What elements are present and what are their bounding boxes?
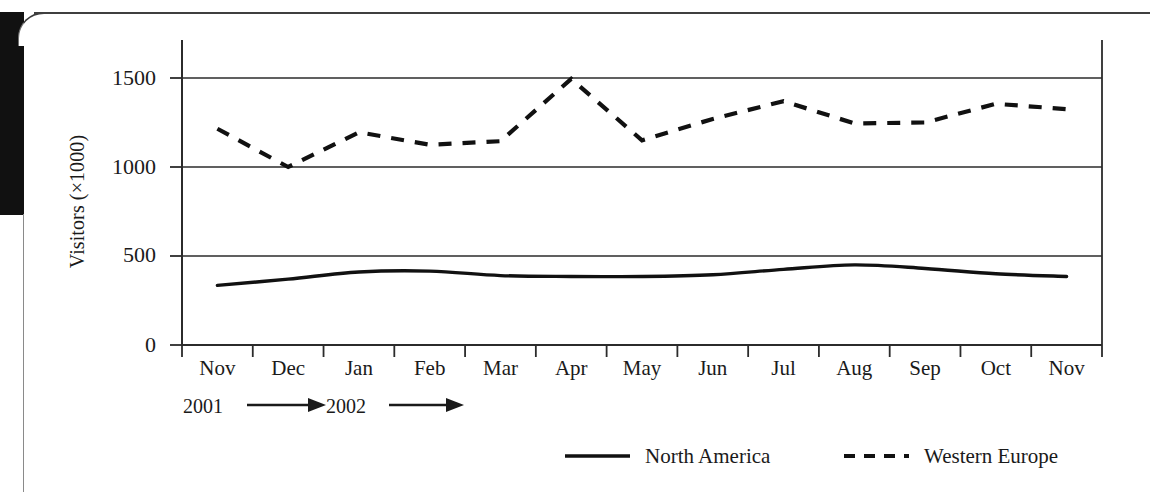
x-tick-label-10: Sep — [885, 358, 965, 379]
x-tick-label-0: Nov — [177, 358, 257, 379]
x-tick-label-11: Oct — [956, 358, 1036, 379]
x-tick-label-3: Feb — [390, 358, 470, 379]
year-label-2002: 2002 — [326, 396, 366, 416]
x-tick-label-4: Mar — [460, 358, 540, 379]
x-tick-label-9: Aug — [814, 358, 894, 379]
y-axis-ticks — [170, 78, 182, 345]
year-arrow-2002 — [389, 398, 464, 412]
x-tick-label-12: Nov — [1027, 358, 1107, 379]
x-tick-label-7: Jun — [673, 358, 753, 379]
plot-canvas — [0, 0, 1150, 492]
line-chart: Visitors (×1000) 1500 1000 500 0 — [0, 0, 1150, 492]
series-line-north-america — [217, 265, 1066, 285]
x-tick-label-5: Apr — [531, 358, 611, 379]
series-line-western-europe — [217, 79, 1066, 167]
legend-label-western-europe: Western Europe — [924, 446, 1058, 467]
x-tick-label-8: Jul — [744, 358, 824, 379]
x-tick-label-6: May — [602, 358, 682, 379]
year-arrow-2001 — [247, 398, 326, 412]
x-tick-label-2: Jan — [319, 358, 399, 379]
x-tick-label-1: Dec — [248, 358, 328, 379]
legend-label-north-america: North America — [645, 446, 770, 467]
year-label-2001: 2001 — [183, 396, 223, 416]
